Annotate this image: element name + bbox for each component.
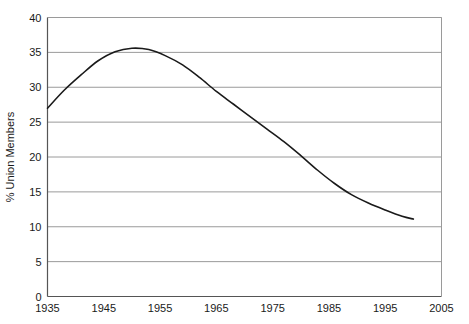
y-axis-tick-label: 35 <box>29 46 41 58</box>
chart-background <box>0 0 469 324</box>
x-axis-tick-label: 1995 <box>373 302 397 314</box>
y-axis-tick-label: 40 <box>29 12 41 24</box>
y-axis-tick-label: 25 <box>29 116 41 128</box>
x-axis-tick-label: 2005 <box>429 302 453 314</box>
x-axis-tick-label: 1955 <box>148 302 172 314</box>
y-axis-tick-label: 5 <box>35 256 41 268</box>
y-axis-title: % Union Members <box>4 111 16 202</box>
x-axis-tick-label: 1985 <box>317 302 341 314</box>
x-axis-tick-label: 1945 <box>92 302 116 314</box>
y-axis-tick-label: 10 <box>29 221 41 233</box>
x-axis-tick-label: 1965 <box>204 302 228 314</box>
line-chart: 0510152025303540 19351945195519651975198… <box>0 0 469 324</box>
x-axis-tick-label: 1975 <box>260 302 284 314</box>
y-axis-tick-label: 30 <box>29 81 41 93</box>
x-axis-tick-label: 1935 <box>35 302 59 314</box>
y-axis-tick-label: 15 <box>29 186 41 198</box>
chart-container: 0510152025303540 19351945195519651975198… <box>0 0 469 324</box>
y-axis-tick-label: 20 <box>29 151 41 163</box>
